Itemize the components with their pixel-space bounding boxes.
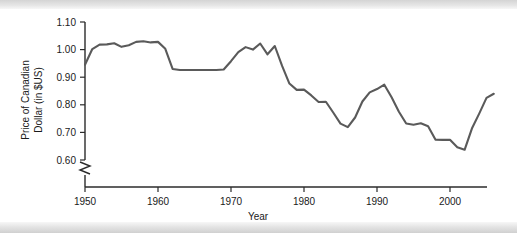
y-tick-label: 0.80 (57, 99, 77, 110)
data-series-line (85, 41, 494, 149)
y-axis-title-line1: Price of Canadian (20, 60, 31, 140)
y-axis-title-line2: Dollar (in $US) (33, 67, 44, 133)
y-tick-label: 0.70 (57, 127, 77, 138)
axis-break-icon (80, 162, 90, 174)
x-tick-labels: 1950 1960 1970 1980 1990 2000 (74, 196, 462, 207)
figure-container: 1.10 1.00 0.90 0.80 0.70 0.60 Price of C… (0, 0, 517, 233)
y-tick-label: 0.60 (57, 155, 77, 166)
y-tick-label: 1.00 (57, 44, 77, 55)
y-tick-label: 0.90 (57, 72, 77, 83)
x-tick-label: 1980 (293, 196, 316, 207)
y-tick-labels: 1.10 1.00 0.90 0.80 0.70 0.60 (57, 17, 77, 166)
x-tick-label: 1960 (147, 196, 170, 207)
x-axis-title: Year (248, 211, 269, 222)
x-tick-label: 1950 (74, 196, 97, 207)
line-chart: 1.10 1.00 0.90 0.80 0.70 0.60 Price of C… (0, 0, 517, 233)
x-tick-label: 1970 (220, 196, 243, 207)
x-tick-label: 1990 (366, 196, 389, 207)
x-tick-label: 2000 (439, 196, 462, 207)
x-axis-group (85, 187, 487, 192)
y-axis-title: Price of Canadian Dollar (in $US) (20, 60, 44, 140)
y-tick-marks (80, 22, 85, 160)
y-tick-label: 1.10 (57, 17, 77, 28)
